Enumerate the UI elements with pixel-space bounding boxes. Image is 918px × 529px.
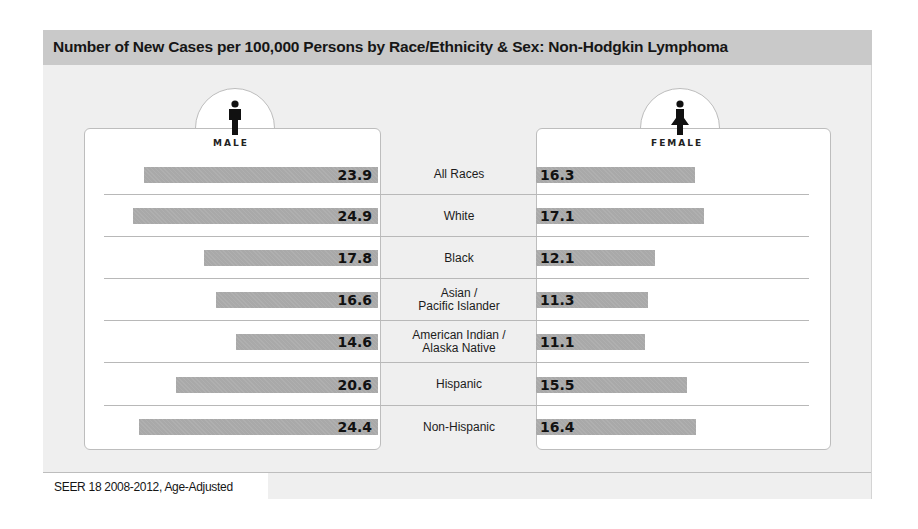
female-value: 15.5 [540,377,575,393]
male-bar-black: 17.8 [204,250,378,266]
male-figure-icon [226,100,244,136]
row-divider [104,320,809,321]
male-bar-american-indian-alaska-native: 14.6 [236,334,378,350]
category-label: Hispanic [386,378,532,391]
female-bar-non-hispanic: 16.4 [536,419,696,435]
male-label: MALE [213,138,249,148]
female-label: FEMALE [651,138,703,148]
row-divider [104,405,809,406]
row-divider [104,194,809,195]
male-bar-all-races: 23.9 [144,167,378,183]
row-divider [104,278,809,279]
row-divider [104,236,809,237]
female-bar-asian-pacific-islander: 11.3 [536,292,648,308]
male-value: 16.6 [337,292,372,308]
row-divider [104,362,809,363]
male-bar-hispanic: 20.6 [176,377,378,393]
female-bar-black: 12.1 [536,250,655,266]
female-value: 12.1 [540,250,575,266]
male-value: 17.8 [337,250,372,266]
female-value: 17.1 [540,208,575,224]
female-figure-icon [670,100,690,136]
chart-title: Number of New Cases per 100,000 Persons … [53,38,728,56]
title-bar: Number of New Cases per 100,000 Persons … [43,30,872,65]
female-value: 16.3 [540,167,575,183]
male-value: 23.9 [337,167,372,183]
male-bar-non-hispanic: 24.4 [139,419,378,435]
category-label: Asian / Pacific Islander [386,287,532,313]
male-value: 24.4 [337,419,372,435]
category-label: Black [386,252,532,265]
footer-note: SEER 18 2008-2012, Age-Adjusted [54,480,233,494]
category-label: American Indian / Alaska Native [386,329,532,355]
female-bar-american-indian-alaska-native: 11.1 [536,334,645,350]
male-value: 20.6 [337,377,372,393]
female-bar-hispanic: 15.5 [536,377,687,393]
female-bar-white: 17.1 [536,208,704,224]
female-value: 16.4 [540,419,575,435]
category-label: Non-Hispanic [386,421,532,434]
category-label: White [386,210,532,223]
female-value: 11.3 [540,292,575,308]
female-bar-all-races: 16.3 [536,167,695,183]
female-value: 11.1 [540,334,575,350]
male-value: 14.6 [337,334,372,350]
category-label: All Races [386,168,532,181]
male-bar-asian-pacific-islander: 16.6 [216,292,378,308]
male-value: 24.9 [337,208,372,224]
male-bar-white: 24.9 [133,208,378,224]
